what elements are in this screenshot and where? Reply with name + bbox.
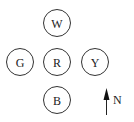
circle-g: G: [7, 49, 34, 76]
north-arrow-icon: [104, 88, 110, 115]
circle-w-label: W: [51, 17, 63, 31]
circle-y-label: Y: [91, 56, 100, 70]
diagram-canvas: W G R Y B N: [0, 0, 134, 122]
circle-g-label: G: [16, 56, 25, 70]
circle-r-label: R: [53, 56, 61, 70]
circle-b: B: [44, 87, 71, 114]
north-label: N: [113, 93, 122, 107]
circle-b-label: B: [53, 94, 61, 108]
circle-r: R: [44, 49, 71, 76]
circle-w: W: [44, 10, 71, 37]
circle-y: Y: [82, 49, 109, 76]
